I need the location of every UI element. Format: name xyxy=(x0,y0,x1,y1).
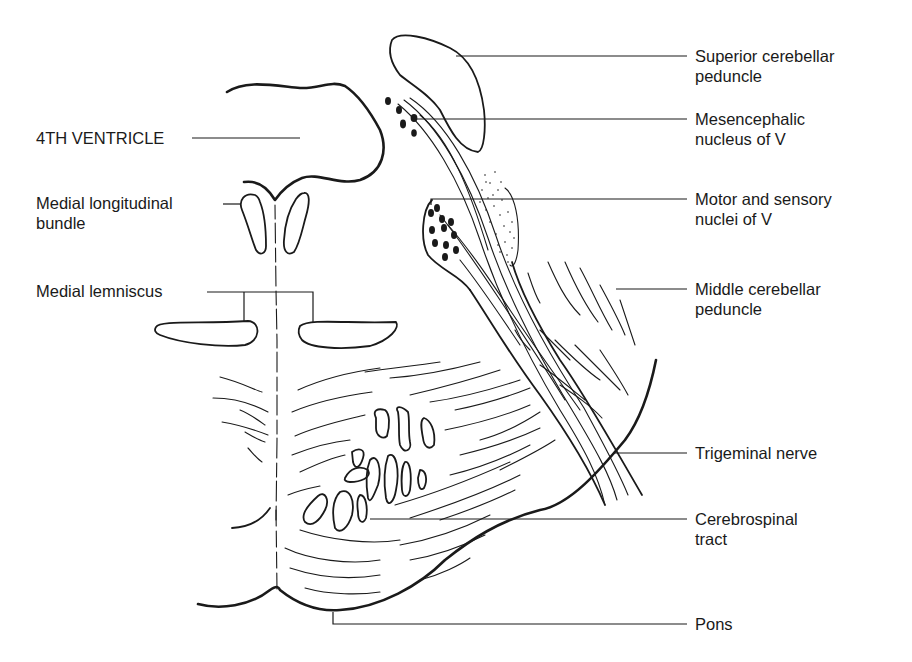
label-mlf-line2: bundle xyxy=(36,213,86,233)
trigeminal-nerve-outer-right xyxy=(512,262,642,495)
label-motor-sensory-line1: Motor and sensory xyxy=(695,189,832,209)
midline-raphe-lower xyxy=(276,510,277,590)
midline-raphe xyxy=(275,205,277,520)
label-scp-line2: peduncle xyxy=(695,66,762,86)
label-fourth-ventricle: 4TH VENTRICLE xyxy=(36,128,164,148)
label-cerebrospinal-line2: tract xyxy=(695,529,727,549)
label-pons: Pons xyxy=(695,614,733,634)
pons-outer-contour xyxy=(198,360,656,610)
sensory-nucleus-stipple xyxy=(479,171,515,263)
label-mlf-line1: Medial longitudinal xyxy=(36,193,173,213)
label-trigeminal-nerve: Trigeminal nerve xyxy=(695,443,817,463)
mlf-left xyxy=(241,194,266,253)
mlf-right xyxy=(284,193,309,254)
leader-lines xyxy=(192,56,687,624)
label-mesencephalic-line2: nucleus of V xyxy=(695,129,786,149)
trigeminal-nerve-fibers xyxy=(398,98,628,505)
left-lower-edge xyxy=(232,508,270,528)
pons-diagram xyxy=(0,0,912,662)
label-motor-sensory-line2: nuclei of V xyxy=(695,209,772,229)
medial-lemniscus-left xyxy=(155,321,257,346)
label-scp-line1: Superior cerebellar xyxy=(695,46,834,66)
label-cerebrospinal-line1: Cerebrospinal xyxy=(695,509,798,529)
label-mcp-line1: Middle cerebellar xyxy=(695,279,821,299)
label-mcp-line2: peduncle xyxy=(695,299,762,319)
medial-lemniscus-right xyxy=(299,322,397,348)
label-medial-lemniscus: Medial lemniscus xyxy=(36,281,163,301)
fourth-ventricle-outline xyxy=(227,84,384,200)
label-mesencephalic-line1: Mesencephalic xyxy=(695,109,805,129)
